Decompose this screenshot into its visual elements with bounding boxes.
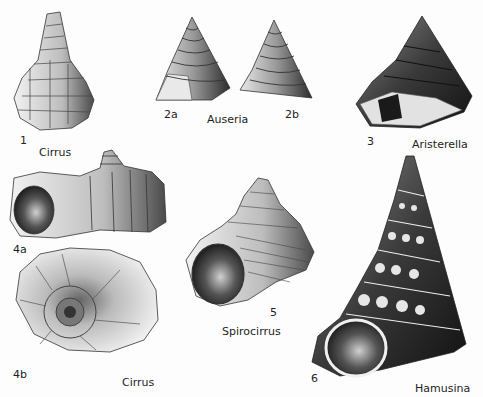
- fig2b-number: 2b: [285, 109, 299, 121]
- fig1-genus-label: Cirrus: [39, 147, 71, 159]
- fossil-plate: 1 Cirrus 2a 2b Auseria 3 Aristerella 4a …: [0, 0, 483, 397]
- shell-fig4b-cirrus: [16, 248, 158, 352]
- shell-fig1-cirrus: [14, 12, 94, 130]
- fig6-genus-label: Hamusina: [415, 383, 470, 395]
- shell-fig4a-cirrus: [10, 150, 166, 238]
- fig1-number: 1: [20, 135, 27, 147]
- fig2a-number: 2a: [164, 109, 178, 121]
- fig2-genus-label: Auseria: [207, 114, 248, 126]
- fig6-number: 6: [311, 373, 318, 385]
- shell-fig6-hamusina: [312, 156, 466, 376]
- fig5-genus-label: Spirocirrus: [222, 326, 281, 338]
- fig3-genus-label: Aristerella: [412, 139, 468, 151]
- shell-fig2b-auseria: [240, 20, 312, 98]
- shell-fig2a-auseria: [156, 17, 230, 100]
- shell-fig3-aristerella: [356, 16, 472, 128]
- shell-fig5-spirocirrus: [186, 178, 314, 306]
- fig4a-number: 4a: [13, 244, 27, 256]
- fig4-genus-label: Cirrus: [122, 377, 154, 389]
- fig3-number: 3: [367, 136, 374, 148]
- fig5-number: 5: [270, 307, 277, 319]
- fig4b-number: 4b: [13, 369, 27, 381]
